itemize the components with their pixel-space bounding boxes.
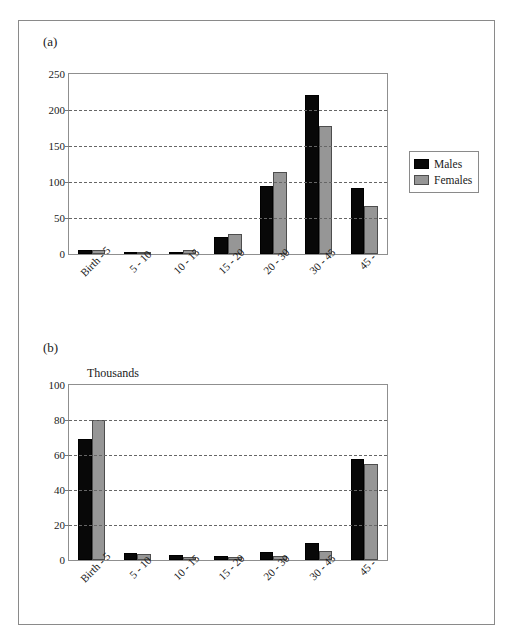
gridline xyxy=(69,218,387,219)
bar-group xyxy=(351,74,378,254)
plot-area-b: 020406080100 xyxy=(68,384,388,561)
y-axis-tick-label: 20 xyxy=(54,520,65,531)
y-axis-tick-label: 100 xyxy=(49,380,66,391)
y-axis-tick-mark xyxy=(65,490,69,491)
y-axis-tick-label: 0 xyxy=(60,249,66,260)
bar-group xyxy=(351,385,378,560)
bar-group xyxy=(169,74,196,254)
chart-panel-a: (a) 050100150200250 Birth - 55 - 1010 - … xyxy=(19,21,496,326)
bar-series-a xyxy=(69,74,387,254)
bar-group xyxy=(78,74,105,254)
legend-label-males: Males xyxy=(434,158,462,170)
bar-males xyxy=(169,252,183,254)
y-axis-tick-mark xyxy=(65,110,69,111)
bar-females xyxy=(273,172,287,254)
bar-group xyxy=(260,385,287,560)
gridline xyxy=(69,455,387,456)
gridline xyxy=(69,182,387,183)
y-axis-tick-mark xyxy=(65,182,69,183)
bar-males xyxy=(260,186,274,254)
bar-group xyxy=(305,74,332,254)
y-axis-tick-label: 100 xyxy=(49,177,66,188)
y-axis-tick-label: 150 xyxy=(49,141,66,152)
bar-males xyxy=(305,543,319,560)
y-axis-tick-label: 80 xyxy=(54,415,65,426)
bar-males xyxy=(169,555,183,560)
y-axis-tick-label: 60 xyxy=(54,450,65,461)
plot-area-a: 050100150200250 xyxy=(68,73,388,255)
y-axis-tick-mark xyxy=(65,146,69,147)
legend-swatch-females-icon xyxy=(414,175,429,185)
bar-males xyxy=(78,250,92,254)
bar-group xyxy=(124,74,151,254)
y-axis-tick-mark xyxy=(65,218,69,219)
y-axis-tick-mark xyxy=(65,420,69,421)
bar-females xyxy=(364,464,378,560)
chart-panel-b: (b) Thousands 020406080100 Birth - 55 - … xyxy=(19,326,496,626)
bar-males xyxy=(351,188,365,254)
gridline xyxy=(69,420,387,421)
gridline xyxy=(69,110,387,111)
figure-page: (a) 050100150200250 Birth - 55 - 1010 - … xyxy=(18,20,495,625)
bar-group xyxy=(260,74,287,254)
legend-label-females: Females xyxy=(434,174,472,186)
bar-males xyxy=(124,553,138,560)
y-axis-tick-label: 40 xyxy=(54,485,65,496)
bar-group xyxy=(305,385,332,560)
bar-males xyxy=(78,439,92,560)
legend-swatch-males-icon xyxy=(414,159,429,169)
panel-a-label: (a) xyxy=(43,34,57,50)
y-axis-unit-label-b: Thousands xyxy=(87,366,139,381)
gridline xyxy=(69,525,387,526)
bar-series-b xyxy=(69,385,387,560)
legend-item-males: Males xyxy=(414,156,472,172)
y-axis-tick-mark xyxy=(65,525,69,526)
bar-group xyxy=(169,385,196,560)
bar-group xyxy=(124,385,151,560)
bar-females xyxy=(364,206,378,254)
y-axis-tick-label: 250 xyxy=(49,69,66,80)
bar-males xyxy=(305,95,319,254)
panel-b-label: (b) xyxy=(43,340,58,356)
legend-item-females: Females xyxy=(414,172,472,188)
y-axis-tick-label: 0 xyxy=(60,555,66,566)
legend-a: Males Females xyxy=(409,151,479,193)
gridline xyxy=(69,146,387,147)
bar-males xyxy=(260,552,274,560)
bar-males xyxy=(214,237,228,254)
bar-males xyxy=(214,556,228,560)
y-axis-tick-label: 50 xyxy=(54,213,65,224)
bar-group xyxy=(214,74,241,254)
bar-group xyxy=(214,385,241,560)
bar-males xyxy=(124,252,138,254)
bar-males xyxy=(351,459,365,561)
y-axis-tick-mark xyxy=(65,455,69,456)
bar-group xyxy=(78,385,105,560)
y-axis-tick-label: 200 xyxy=(49,105,66,116)
gridline xyxy=(69,490,387,491)
